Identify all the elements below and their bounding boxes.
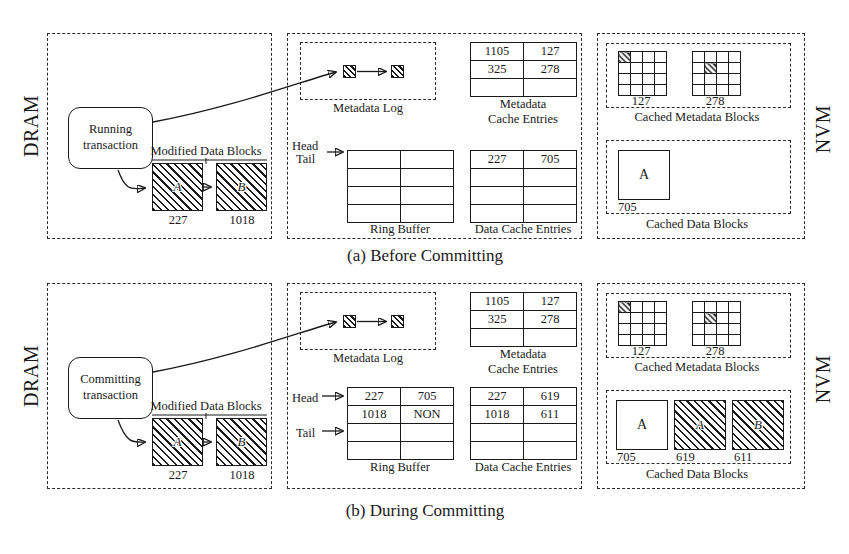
mgrid-cell — [693, 63, 705, 74]
ring-cell-1-1-a — [401, 169, 454, 187]
cached-data-block-2-b: B — [732, 400, 784, 450]
data-cache-cell-1-1-a — [524, 169, 577, 187]
data-cache-entries-title-b: Data Cache Entries — [475, 460, 571, 474]
data-cache-entries-title-a: Data Cache Entries — [475, 222, 571, 236]
md-cache-cell-1-1-b: 278 — [524, 311, 577, 329]
subfigure-caption-b: (b) During Committing — [346, 501, 505, 521]
md-cache-cell-0-1-b: 127 — [524, 293, 577, 311]
cached-data-block-0-glyph-a: A — [639, 167, 649, 183]
table-row — [471, 329, 577, 347]
mgrid-cell — [631, 313, 643, 324]
table-row — [471, 169, 577, 187]
data-cache-cell-3-0-b — [471, 442, 524, 460]
mgrid-cell — [643, 74, 655, 85]
data-cache-cell-1-0-b: 1018 — [471, 406, 524, 424]
metadata-cache-entries-title1-b: Metadata — [500, 347, 547, 361]
mgrid-cell — [655, 52, 667, 63]
table-row: 227 705 — [348, 388, 454, 406]
cached-metadata-block-1-id-a: 278 — [706, 94, 725, 108]
table-row: 1018 611 — [471, 406, 577, 424]
mgrid-cell — [717, 63, 729, 74]
nvm-label-a: NVM — [812, 105, 835, 153]
table-row — [348, 442, 454, 460]
modified-data-blocks-title-a: Modified Data Blocks — [150, 144, 261, 158]
table-row — [471, 442, 577, 460]
metadata-cache-entries-table-a: 1105 127 325 278 — [470, 42, 577, 97]
mgrid-cell — [729, 335, 741, 346]
mgrid-cell — [729, 63, 741, 74]
metadata-log-entry-0-b — [343, 315, 356, 328]
table-row — [348, 151, 454, 169]
metadata-log-entry-1-a — [391, 65, 404, 78]
modified-data-block-0-glyph-b: A — [174, 434, 182, 450]
mgrid-cell — [729, 313, 741, 324]
cached-data-block-0-b: A — [616, 400, 668, 450]
ring-cell-1-0-a — [348, 169, 401, 187]
mgrid-cell — [705, 63, 717, 74]
data-cache-entries-table-b: 227 619 1018 611 — [470, 387, 577, 460]
cached-metadata-block-0-grid-b — [618, 301, 667, 346]
mgrid-cell — [693, 313, 705, 324]
data-cache-cell-3-0-a — [471, 205, 524, 223]
mgrid-cell — [693, 335, 705, 346]
metadata-log-entry-0-a — [343, 65, 356, 78]
mgrid-cell — [705, 324, 717, 335]
metadata-log-box-b — [300, 292, 436, 350]
modified-data-block-0-a: A — [152, 163, 203, 211]
mgrid-cell — [717, 324, 729, 335]
ring-buffer-head-label-b: Head — [292, 391, 318, 405]
ring-cell-1-1-b: NON — [401, 406, 454, 424]
mgrid-cell — [655, 302, 667, 313]
cached-data-block-0-id-b: 705 — [617, 450, 636, 464]
committing-transaction-box-b[interactable]: Committing transaction — [68, 357, 153, 419]
md-cache-cell-2-0-a — [471, 79, 524, 97]
md-cache-cell-2-1-a — [524, 79, 577, 97]
mgrid-cell — [705, 302, 717, 313]
mgrid-cell — [729, 324, 741, 335]
cached-metadata-block-0-grid-a — [618, 51, 667, 96]
running-transaction-box-a[interactable]: Running transaction — [68, 107, 153, 169]
ring-buffer-title-b: Ring Buffer — [370, 460, 430, 474]
ring-cell-3-1-b — [401, 442, 454, 460]
modified-data-block-1-glyph-b: B — [238, 434, 246, 450]
data-cache-cell-2-1-a — [524, 187, 577, 205]
ring-buffer-title-a: Ring Buffer — [370, 222, 430, 236]
mgrid-cell — [619, 52, 631, 63]
data-cache-cell-1-1-b: 611 — [524, 406, 577, 424]
data-cache-cell-2-1-b — [524, 424, 577, 442]
mgrid-cell — [631, 52, 643, 63]
cached-data-block-0-id-a: 705 — [618, 200, 637, 214]
md-cache-cell-0-0-a: 1105 — [471, 43, 524, 61]
cached-data-blocks-title-a: Cached Data Blocks — [646, 217, 748, 231]
cached-data-block-2-glyph-b: B — [754, 417, 762, 433]
table-row — [471, 79, 577, 97]
data-cache-cell-3-1-b — [524, 442, 577, 460]
mgrid-cell — [705, 74, 717, 85]
mgrid-cell — [631, 302, 643, 313]
metadata-log-entry-1-b — [391, 315, 404, 328]
cached-data-block-0-a: A — [618, 150, 670, 200]
mgrid-cell — [619, 313, 631, 324]
mgrid-cell — [693, 324, 705, 335]
ring-buffer-tail-label-b: Tail — [296, 426, 315, 440]
ring-cell-2-1-b — [401, 424, 454, 442]
table-row — [471, 187, 577, 205]
subfigure-caption-a: (a) Before Committing — [347, 246, 503, 266]
table-row — [348, 169, 454, 187]
mgrid-cell — [619, 63, 631, 74]
md-cache-cell-0-1-a: 127 — [524, 43, 577, 61]
cached-data-block-2-id-b: 611 — [734, 450, 752, 464]
metadata-cache-entries-table-b: 1105 127 325 278 — [470, 292, 577, 347]
table-row: 227 705 — [471, 151, 577, 169]
dram-label-b: DRAM — [20, 345, 43, 407]
mgrid-cell — [643, 52, 655, 63]
cached-metadata-blocks-title-b: Cached Metadata Blocks — [635, 360, 760, 374]
metadata-cache-entries-title2-a: Cache Entries — [488, 112, 558, 126]
ring-cell-0-1-b: 705 — [401, 388, 454, 406]
table-row: 1105 127 — [471, 293, 577, 311]
mgrid-cell — [655, 85, 667, 96]
data-cache-cell-0-0-b: 227 — [471, 388, 524, 406]
cached-data-block-1-b: A — [674, 400, 726, 450]
metadata-log-box-a — [300, 42, 436, 100]
cached-metadata-block-0-id-b: 127 — [632, 344, 651, 358]
